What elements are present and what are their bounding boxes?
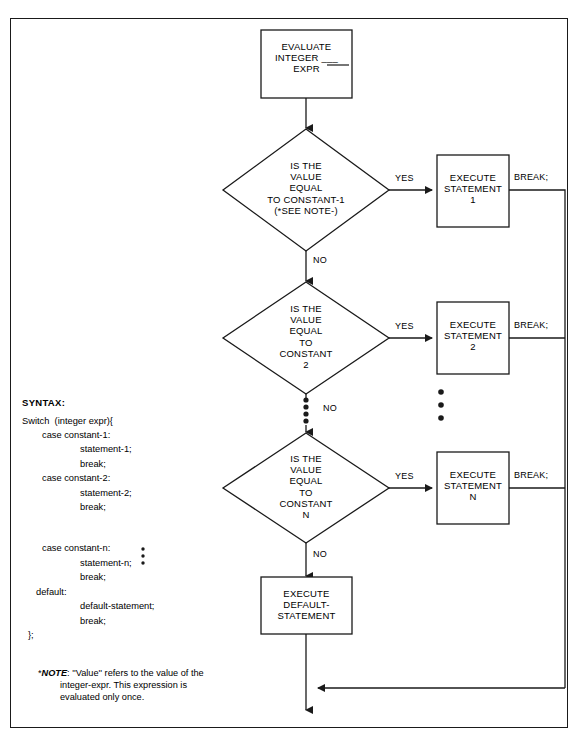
syntax-line-12: break; bbox=[22, 617, 240, 626]
syntax-line-6: break; bbox=[22, 503, 240, 512]
action-3-line-1: EXECUTE bbox=[437, 469, 509, 480]
break-label-1: BREAK; bbox=[514, 172, 548, 182]
yes-label-3: YES bbox=[395, 471, 414, 481]
syntax-line-3: break; bbox=[22, 460, 240, 469]
no-label-2: NO bbox=[323, 403, 337, 413]
syntax-line-5: statement-2; bbox=[22, 489, 240, 498]
note-block: *NOTE: ''Value'' refers to the value of … bbox=[38, 668, 243, 704]
action-ellipsis-dots bbox=[438, 389, 444, 421]
action-2-line-3: 2 bbox=[437, 341, 509, 352]
decision-2-line-1: IS THE bbox=[246, 303, 366, 314]
action-1-line-3: 1 bbox=[437, 194, 509, 205]
default-box-label: EXECUTE DEFAULT- STATEMENT bbox=[261, 588, 352, 622]
note-line-2: integer-expr. This expression is bbox=[38, 680, 243, 692]
syntax-line-13: }; bbox=[22, 631, 240, 640]
action-1-label: EXECUTE STATEMENT 1 bbox=[437, 172, 509, 206]
decision-3-line-2: VALUE bbox=[246, 464, 366, 475]
decision-2-line-4: TO bbox=[246, 337, 366, 348]
start-line-3: EXPR bbox=[261, 63, 352, 74]
decision-3-label: IS THE VALUE EQUAL TO CONSTANT N bbox=[246, 453, 366, 520]
decision-2-line-2: VALUE bbox=[246, 314, 366, 325]
action-1-line-1: EXECUTE bbox=[437, 172, 509, 183]
decision-ellipsis-dots bbox=[303, 397, 308, 423]
yes-label-2: YES bbox=[395, 321, 414, 331]
syntax-line-8: statement-n; bbox=[22, 559, 240, 568]
syntax-line-9: break; bbox=[22, 573, 240, 582]
action-2-label: EXECUTE STATEMENT 2 bbox=[437, 319, 509, 353]
decision-1-line-1: IS THE bbox=[216, 160, 396, 171]
action-3-line-3: N bbox=[437, 491, 509, 502]
note-bold-word: NOTE bbox=[42, 668, 68, 678]
action-3-line-2: STATEMENT bbox=[437, 480, 509, 491]
decision-2-label: IS THE VALUE EQUAL TO CONSTANT 2 bbox=[246, 303, 366, 370]
decision-1-line-5: (*SEE NOTE-) bbox=[216, 205, 396, 216]
default-line-2: DEFAULT- bbox=[261, 599, 352, 610]
decision-3-line-1: IS THE bbox=[246, 453, 366, 464]
decision-3-line-5: CONSTANT bbox=[246, 498, 366, 509]
start-line-2: INTEGER ___ bbox=[261, 52, 352, 63]
start-line-1: EVALUATE bbox=[261, 41, 352, 52]
decision-1-line-2: VALUE bbox=[216, 171, 396, 182]
note-line-3: evaluated only once. bbox=[38, 692, 243, 704]
decision-2-line-3: EQUAL bbox=[246, 325, 366, 336]
break-label-2: BREAK; bbox=[514, 320, 548, 330]
decision-2-line-5: CONSTANT bbox=[246, 348, 366, 359]
syntax-line-2: statement-1; bbox=[22, 445, 240, 454]
syntax-line-7: case constant-n: bbox=[22, 544, 240, 553]
yes-label-1: YES bbox=[395, 173, 414, 183]
action-2-line-2: STATEMENT bbox=[437, 330, 509, 341]
start-box-label: EVALUATE INTEGER ___ EXPR bbox=[261, 41, 352, 75]
syntax-line-10: default: bbox=[22, 588, 240, 597]
decision-3-line-3: EQUAL bbox=[246, 475, 366, 486]
syntax-line-0: Switch (integer expr){ bbox=[22, 417, 240, 426]
break-label-3: BREAK; bbox=[514, 470, 548, 480]
default-line-1: EXECUTE bbox=[261, 588, 352, 599]
action-3-label: EXECUTE STATEMENT N bbox=[437, 469, 509, 503]
action-1-line-2: STATEMENT bbox=[437, 183, 509, 194]
decision-3-line-4: TO bbox=[246, 487, 366, 498]
no-label-3: NO bbox=[313, 549, 327, 559]
syntax-line-1: case constant-1: bbox=[22, 431, 240, 440]
decision-1-line-3: EQUAL bbox=[216, 182, 396, 193]
action-2-line-1: EXECUTE bbox=[437, 319, 509, 330]
decision-1-line-4: TO CONSTANT-1 bbox=[216, 194, 396, 205]
decision-2-line-6: 2 bbox=[246, 359, 366, 370]
note-line-1: : ''Value'' refers to the value of the bbox=[67, 668, 204, 678]
default-line-3: STATEMENT bbox=[261, 610, 352, 621]
syntax-line-11: default-statement; bbox=[22, 602, 240, 611]
syntax-ellipsis-gap bbox=[22, 518, 240, 539]
syntax-line-4: case constant-2: bbox=[22, 474, 240, 483]
decision-3-line-6: N bbox=[246, 509, 366, 520]
syntax-block: SYNTAX: Switch (integer expr){ case cons… bbox=[22, 398, 240, 645]
syntax-header: SYNTAX: bbox=[22, 398, 240, 408]
decision-1-label: IS THE VALUE EQUAL TO CONSTANT-1 (*SEE N… bbox=[216, 160, 396, 216]
no-label-1: NO bbox=[313, 255, 327, 265]
